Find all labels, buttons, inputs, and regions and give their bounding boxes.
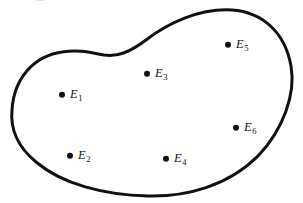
point-E5[interactable]: E5: [225, 38, 249, 53]
point-subscript: 1: [78, 93, 82, 103]
point-letter: E: [70, 87, 78, 101]
set-diagram-figure: E1 E2 E3 E4 E5 E6: [0, 0, 303, 203]
point-letter: E: [236, 37, 244, 51]
point-dot-icon: [163, 156, 169, 162]
point-subscript: 4: [182, 157, 186, 167]
point-E1[interactable]: E1: [59, 88, 83, 103]
point-E2[interactable]: E2: [67, 149, 91, 164]
point-letter: E: [244, 120, 252, 134]
point-label: E1: [70, 88, 83, 103]
point-dot-icon: [67, 153, 73, 159]
point-dot-icon: [144, 71, 150, 77]
point-dot-icon: [233, 125, 239, 131]
point-label: E4: [174, 152, 187, 167]
point-dot-icon: [59, 92, 65, 98]
point-E6[interactable]: E6: [233, 121, 257, 136]
point-label: E3: [155, 67, 168, 82]
point-subscript: 6: [252, 126, 256, 136]
point-label: E5: [236, 38, 249, 53]
point-subscript: 3: [163, 72, 167, 82]
closed-region-curve: [12, 10, 292, 196]
point-E3[interactable]: E3: [144, 67, 168, 82]
point-subscript: 5: [244, 43, 248, 53]
point-subscript: 2: [86, 154, 90, 164]
point-dot-icon: [225, 42, 231, 48]
region-outline-svg: [0, 0, 303, 203]
point-letter: E: [155, 66, 163, 80]
point-letter: E: [78, 148, 86, 162]
point-letter: E: [174, 151, 182, 165]
point-label: E2: [78, 149, 91, 164]
point-label: E6: [244, 121, 257, 136]
point-E4[interactable]: E4: [163, 152, 187, 167]
